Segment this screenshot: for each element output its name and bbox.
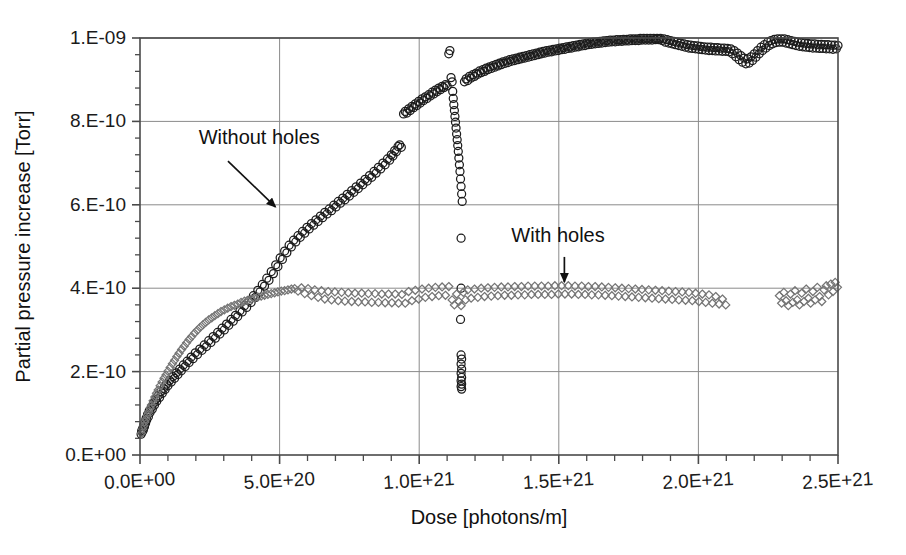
annotation-label: With holes	[511, 224, 604, 246]
y-axis-title: Partial pressure increase [Torr]	[12, 110, 34, 382]
y-tick-label: 4.E-10	[70, 277, 126, 298]
y-tick-label: 2.E-10	[70, 361, 126, 382]
x-axis-title: Dose [photons/m]	[411, 506, 568, 528]
y-tick-label: 6.E-10	[70, 194, 126, 215]
scatter-chart: 0.E+002.E-104.E-106.E-108.E-101.E-090.0E…	[0, 0, 906, 555]
y-tick-label: 8.E-10	[70, 110, 126, 131]
x-tick-label: 2.5E+21	[801, 468, 873, 493]
y-tick-label: 0.E+00	[65, 444, 126, 465]
x-tick-label: 5.0E+20	[243, 468, 315, 493]
annotation-label: Without holes	[199, 126, 320, 148]
figure-container: 0.E+002.E-104.E-106.E-108.E-101.E-090.0E…	[0, 0, 906, 555]
x-tick-label: 1.0E+21	[383, 468, 455, 493]
x-tick-label: 2.0E+21	[662, 468, 734, 493]
x-tick-label: 1.5E+21	[522, 468, 594, 493]
x-tick-label: 0.0E+00	[103, 468, 175, 493]
y-tick-label: 1.E-09	[70, 27, 126, 48]
